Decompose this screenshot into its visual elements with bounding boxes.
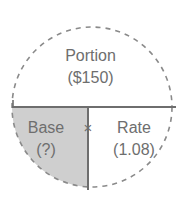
percentage-circle-diagram: Portion ($150) Base (?) × Rate (1.08) xyxy=(0,0,181,198)
base-quadrant-fill xyxy=(12,107,88,187)
diagram-canvas xyxy=(0,0,181,198)
